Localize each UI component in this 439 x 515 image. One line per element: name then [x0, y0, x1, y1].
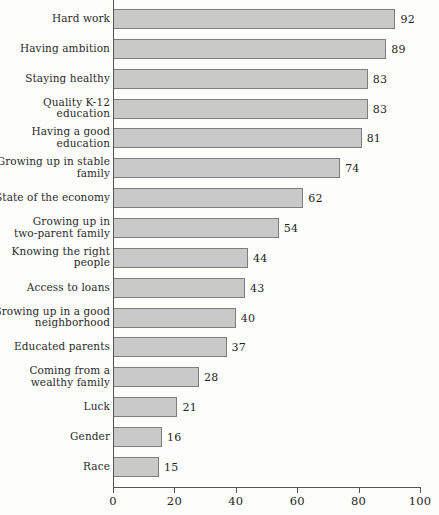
- bar-value-label: 16: [167, 430, 181, 443]
- bar: [113, 367, 199, 387]
- x-tick-label: 60: [290, 494, 305, 508]
- bar: [113, 308, 236, 328]
- bar-value-label: 28: [204, 371, 218, 384]
- category-label: Knowing the right people: [0, 246, 110, 269]
- category-label: Having a good education: [0, 127, 110, 150]
- category-label: Growing up in a good neighborhood: [0, 306, 110, 329]
- x-tick-label: 40: [228, 494, 243, 508]
- bar-row: Luck21: [0, 392, 439, 422]
- category-label: Access to loans: [0, 282, 110, 294]
- bar-row: Staying healthy83: [0, 64, 439, 94]
- bar-value-label: 40: [241, 311, 255, 324]
- bar-value-label: 43: [250, 281, 264, 294]
- bar: [113, 218, 279, 238]
- x-tick: [113, 487, 114, 493]
- x-tick-label: 20: [167, 494, 182, 508]
- bar: [113, 337, 227, 357]
- bar: [113, 278, 245, 298]
- bar-row: Coming from a wealthy family28: [0, 362, 439, 392]
- bar-value-label: 83: [373, 72, 387, 85]
- x-tick-label: 100: [409, 494, 432, 508]
- bar: [113, 188, 303, 208]
- bar-row: Growing up in two-parent family54: [0, 213, 439, 243]
- category-label: Growing up in two-parent family: [0, 216, 110, 239]
- category-label: Coming from a wealthy family: [0, 366, 110, 389]
- bar-value-label: 74: [345, 162, 359, 175]
- bar-row: Hard work92: [0, 4, 439, 34]
- bar: [113, 248, 248, 268]
- category-label: Growing up in stable family: [0, 157, 110, 180]
- bar-row: Quality K-12 education83: [0, 94, 439, 124]
- bar: [113, 158, 340, 178]
- bar-value-label: 15: [164, 460, 178, 473]
- bar-value-label: 44: [253, 251, 267, 264]
- x-tick: [236, 487, 237, 493]
- bar-row: Gender16: [0, 422, 439, 452]
- category-label: Hard work: [0, 13, 110, 25]
- category-label: State of the economy: [0, 192, 110, 204]
- category-label: Luck: [0, 401, 110, 413]
- x-tick: [174, 487, 175, 493]
- bar-row: Race15: [0, 452, 439, 482]
- plot-area: Hard work92Having ambition89Staying heal…: [0, 0, 439, 515]
- bar-row: Access to loans43: [0, 273, 439, 303]
- category-label: Quality K-12 education: [0, 97, 110, 120]
- x-tick-label: 0: [109, 494, 117, 508]
- bar: [113, 99, 368, 119]
- bar-value-label: 92: [400, 13, 414, 26]
- x-tick-label: 80: [351, 494, 366, 508]
- y-axis-line: [113, 0, 114, 487]
- bar-value-label: 81: [367, 132, 381, 145]
- x-tick: [420, 487, 421, 493]
- bar: [113, 69, 368, 89]
- category-label: Having ambition: [0, 43, 110, 55]
- bar: [113, 457, 159, 477]
- bar-row: Having a good education81: [0, 123, 439, 153]
- bar-value-label: 54: [284, 221, 298, 234]
- bar: [113, 397, 177, 417]
- category-label: Educated parents: [0, 342, 110, 354]
- bar: [113, 128, 362, 148]
- bar-row: Educated parents37: [0, 332, 439, 362]
- x-tick: [359, 487, 360, 493]
- bar-value-label: 83: [373, 102, 387, 115]
- bar-value-label: 89: [391, 42, 405, 55]
- bar-value-label: 37: [232, 341, 246, 354]
- category-label: Gender: [0, 431, 110, 443]
- bar: [113, 39, 386, 59]
- category-label: Race: [0, 461, 110, 473]
- bar-row: Having ambition89: [0, 34, 439, 64]
- bar-row: Knowing the right people44: [0, 243, 439, 273]
- bar-chart: Hard work92Having ambition89Staying heal…: [0, 0, 439, 515]
- x-axis-line: [113, 487, 420, 488]
- bar-row: Growing up in a good neighborhood40: [0, 303, 439, 333]
- bar-value-label: 21: [182, 401, 196, 414]
- x-tick: [297, 487, 298, 493]
- bar: [113, 427, 162, 447]
- bar-row: Growing up in stable family74: [0, 153, 439, 183]
- bar: [113, 9, 395, 29]
- bar-value-label: 62: [308, 192, 322, 205]
- bar-row: State of the economy62: [0, 183, 439, 213]
- category-label: Staying healthy: [0, 73, 110, 85]
